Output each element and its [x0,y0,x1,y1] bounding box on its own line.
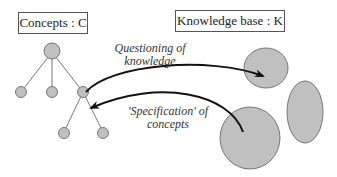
concepts-title: Concepts : C [19,15,86,30]
specification-caption: 'Specification' of concepts [118,105,218,131]
knowledge-base-title: Knowledge base : K [177,13,283,28]
concepts-title-box: Concepts : C [18,12,88,34]
concept-node [59,128,70,139]
knowledge-set-2 [220,107,280,169]
concept-tree-edges [21,52,103,132]
knowledge-set-1 [244,48,288,88]
concept-root-node [44,43,60,59]
specification-caption-line2: concepts [118,118,218,131]
questioning-arrow [86,65,263,92]
knowledge-set-3 [287,81,323,143]
concept-node [16,87,27,98]
questioning-caption: Questioning of knowledge [100,42,200,68]
concept-node [47,87,58,98]
concept-tree [16,43,109,139]
knowledge-base-title-box: Knowledge base : K [175,10,285,32]
questioning-caption-line2: knowledge [100,55,200,68]
knowledge-base-sets [220,48,323,169]
concept-node [98,128,109,139]
